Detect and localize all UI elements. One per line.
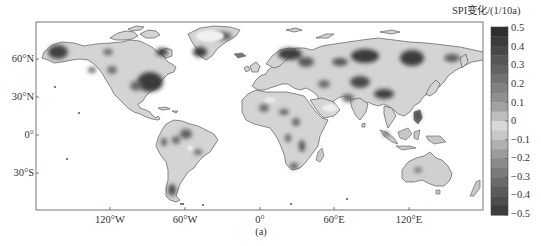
colorbar-label: −0.4: [511, 189, 530, 200]
lon-label-120e: 120°E: [384, 214, 434, 225]
lat-label-30n: 30°N: [0, 91, 34, 102]
colorbar-label: 0.2: [511, 78, 524, 89]
colorbar-label: 0.3: [511, 59, 524, 70]
colorbar-label: −0.2: [511, 152, 530, 163]
colorbar-band: [491, 159, 508, 169]
colorbar-band: [491, 83, 508, 93]
lon-label-60w: 60°W: [160, 214, 210, 225]
colorbar-label: 0.5: [511, 22, 524, 33]
colorbar-band: [491, 46, 508, 56]
colorbar-label: −0.5: [511, 208, 530, 219]
colorbar-label: −0.1: [511, 134, 530, 145]
colorbar-band: [491, 112, 508, 122]
colorbar-band: [491, 130, 508, 140]
colorbar-band: [491, 177, 508, 187]
colorbar-band: [491, 65, 508, 75]
colorbar-title: SPI变化/(1/10a): [452, 2, 520, 17]
colorbar-label: 0: [511, 115, 516, 126]
panel-label: (a): [250, 226, 272, 237]
figure: 60°N 30°N 0° 30°S 120°W 60°W 0° 60°E 120…: [0, 0, 541, 246]
colorbar-band: [491, 36, 508, 46]
colorbar-band: [491, 27, 508, 37]
colorbar-band: [491, 121, 508, 131]
lon-label-120w: 120°W: [85, 214, 135, 225]
lon-label-60e: 60°E: [309, 214, 359, 225]
colorbar-band: [491, 196, 508, 206]
lat-label-60n: 60°N: [0, 53, 34, 64]
colorbar-label: −0.3: [511, 171, 530, 182]
landmass-tasmania: [436, 190, 440, 194]
colorbar-band: [491, 74, 508, 84]
colorbar-band: [491, 93, 508, 103]
colorbar-label: 0.4: [511, 41, 524, 52]
colorbar-band: [491, 102, 508, 112]
colorbar-band: [491, 206, 508, 216]
lon-label-0: 0°: [235, 214, 285, 225]
colorbar-band: [491, 168, 508, 178]
lat-label-0: 0°: [0, 129, 34, 140]
colorbar-band: [491, 140, 508, 150]
colorbar-band: [491, 187, 508, 197]
colorbar-label: 0.1: [511, 97, 524, 108]
lat-label-30s: 30°S: [0, 167, 34, 178]
colorbar-band: [491, 149, 508, 159]
colorbar-band: [491, 55, 508, 65]
